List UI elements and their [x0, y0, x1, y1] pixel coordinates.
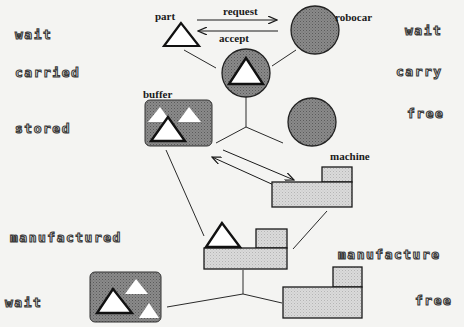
machine-free-block-icon — [283, 267, 362, 318]
robocar-label: robocar — [335, 11, 372, 23]
right-state-free: free — [407, 107, 444, 121]
robocar-carrying-part-icon — [222, 49, 270, 97]
accept-label: accept — [219, 32, 249, 44]
buffer-to-manufactured-line — [166, 150, 204, 236]
robocar-circle-icon — [291, 6, 339, 54]
right-state-free-bottom: free — [415, 294, 452, 308]
machine-to-buffer-arrow — [212, 157, 276, 186]
right-state-manufacture: manufacture — [338, 248, 441, 262]
machine-to-manufactured-line — [293, 211, 327, 249]
left-state-manufactured: manufactured — [10, 231, 122, 245]
buffer-label: buffer — [143, 88, 172, 100]
robocar-to-carried-line — [272, 50, 296, 66]
part-label: part — [155, 10, 175, 22]
right-state-carry: carry — [396, 65, 443, 79]
robocar-free-circle-icon — [288, 98, 336, 146]
left-state-stored: stored — [15, 122, 71, 136]
right-state-wait: wait — [405, 24, 442, 38]
left-state-wait: wait — [15, 28, 52, 42]
part-to-carried-line — [184, 50, 216, 68]
left-state-wait-bottom: wait — [5, 296, 42, 310]
buffer-box-icon — [145, 100, 212, 146]
request-label: request — [223, 5, 258, 17]
left-state-carried: carried — [15, 66, 80, 80]
part-triangle-icon — [164, 23, 199, 46]
machine-with-part-icon — [204, 223, 287, 269]
buffer-to-machine-arrow — [223, 150, 294, 180]
diagram-graphics — [0, 0, 464, 327]
diagram-canvas: part robocar buffer machine request acce… — [0, 0, 464, 327]
buffer-bottom-box-icon — [90, 272, 161, 322]
manufactured-split-junction — [167, 270, 282, 307]
machine-label: machine — [330, 150, 370, 162]
carried-split-junction — [216, 97, 283, 143]
machine-block-icon — [272, 167, 352, 207]
